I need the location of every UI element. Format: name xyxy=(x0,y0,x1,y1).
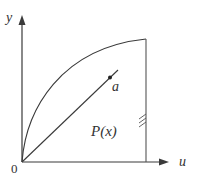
origin-label: 0 xyxy=(11,161,18,176)
region-label: P(x) xyxy=(90,123,117,140)
y-axis-label: y xyxy=(4,10,13,25)
diagram-canvas: y u 0 a P(x) xyxy=(0,0,197,177)
y-axis xyxy=(19,15,26,162)
x-axis-label: u xyxy=(179,154,186,169)
ray-line xyxy=(22,70,118,162)
y-axis-arrow-icon xyxy=(19,15,26,25)
x-axis xyxy=(22,159,169,166)
point-a-label: a xyxy=(112,79,119,94)
x-axis-arrow-icon xyxy=(159,159,169,166)
hatch-marks-icon xyxy=(139,114,146,127)
